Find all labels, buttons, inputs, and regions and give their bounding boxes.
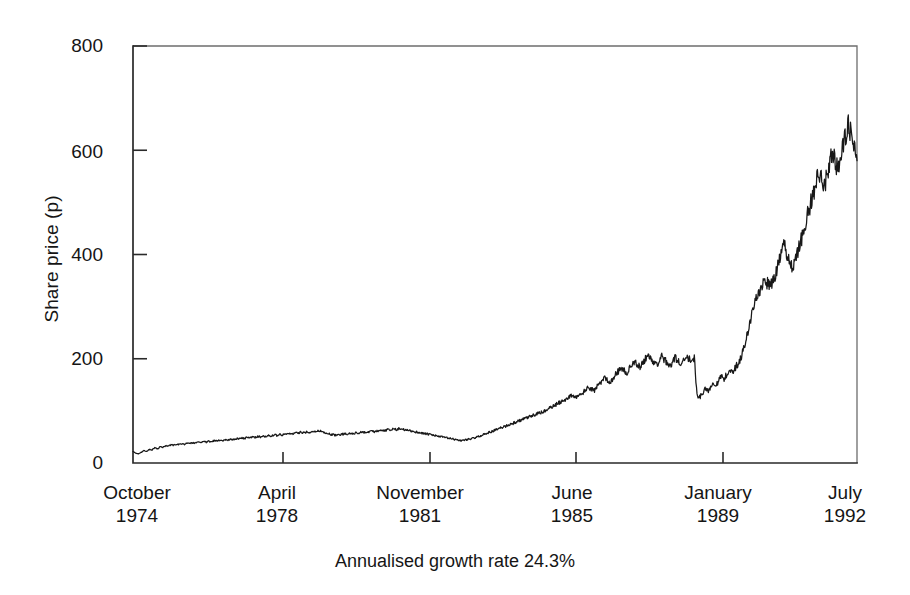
share-price-figure: Share price (p) 800 600 400 200 0 Octobe… (0, 0, 910, 595)
plot-axes (133, 46, 857, 463)
plot-frame (133, 46, 857, 463)
plot-canvas (0, 0, 910, 595)
share-price-line (133, 115, 857, 454)
x-axis-ticks (283, 452, 723, 463)
y-axis-ticks (133, 46, 147, 359)
